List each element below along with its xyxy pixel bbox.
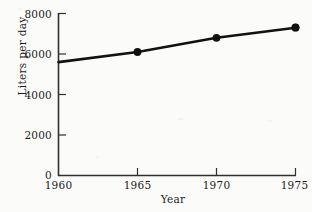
data-point-1975 xyxy=(292,23,300,31)
y-axis-title: Liters per day xyxy=(16,1,28,111)
x-tick-marks xyxy=(138,168,296,176)
x-tick-label-1975: 1975 xyxy=(275,179,312,191)
y-tick-marks xyxy=(59,14,67,136)
x-tick-label-1970: 1970 xyxy=(197,179,237,191)
chart-figure: 8000 6000 4000 2000 0 1960 1965 1970 197… xyxy=(0,0,311,212)
data-point-1960 xyxy=(134,48,142,56)
x-axis-title: Year xyxy=(138,193,208,205)
data-point-1965 xyxy=(213,34,221,42)
data-line-series xyxy=(59,28,296,62)
x-tick-label-1965: 1965 xyxy=(118,179,158,191)
x-tick-label-1960: 1960 xyxy=(39,179,79,191)
data-point-markers xyxy=(134,23,300,55)
y-tick-label-2000: 2000 xyxy=(0,129,52,141)
